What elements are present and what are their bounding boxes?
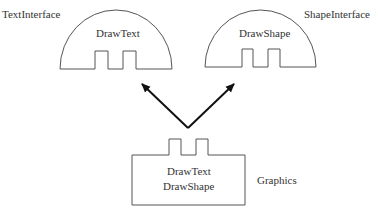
text-interface-method: DrawText [96, 27, 140, 39]
shape-interface-label: ShapeInterface [304, 8, 370, 20]
graphics-method-1: DrawText [167, 165, 211, 177]
text-interface-label: TextInterface [2, 8, 60, 20]
arrow-to-text-interface [142, 84, 188, 128]
text-interface-shape [60, 10, 172, 69]
graphics-label: Graphics [257, 174, 297, 186]
graphics-method-2: DrawShape [163, 180, 214, 192]
arrow-to-shape-interface [188, 84, 234, 128]
shape-interface-method: DrawShape [239, 27, 290, 39]
